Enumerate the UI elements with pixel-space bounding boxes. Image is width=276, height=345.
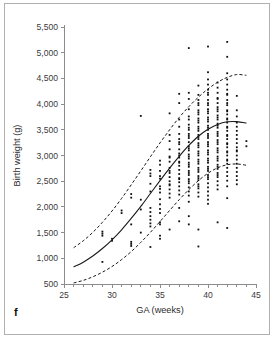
data-point (159, 192, 161, 194)
data-point (178, 133, 180, 135)
data-point (217, 189, 219, 191)
data-point (217, 110, 219, 112)
data-point (178, 173, 180, 175)
data-point (198, 130, 200, 132)
data-point (130, 245, 132, 247)
data-point (178, 190, 180, 192)
data-point (178, 148, 180, 150)
data-point (188, 129, 190, 131)
data-point (236, 183, 238, 185)
data-point (159, 223, 161, 225)
data-point (207, 108, 209, 110)
data-point (226, 79, 228, 81)
data-point (130, 197, 132, 199)
data-point (159, 164, 161, 166)
data-point (207, 203, 209, 205)
data-point (169, 193, 171, 195)
data-point (198, 146, 200, 148)
data-point (198, 85, 200, 87)
data-point (159, 188, 161, 190)
data-point (236, 149, 238, 151)
data-point (150, 215, 152, 217)
y-axis-title: Birth weight (g) (12, 125, 22, 187)
data-point (226, 143, 228, 145)
data-point (188, 180, 190, 182)
data-point (159, 212, 161, 214)
data-point (188, 162, 190, 164)
data-point (198, 153, 200, 155)
data-point (169, 161, 171, 163)
data-point (188, 133, 190, 135)
data-point (217, 127, 219, 129)
data-point (236, 109, 238, 111)
data-point (207, 137, 209, 139)
data-point (207, 162, 209, 164)
data-point (159, 160, 161, 162)
data-point (198, 171, 200, 173)
data-point (198, 94, 200, 96)
data-point (159, 185, 161, 187)
x-tick-label: 25 (59, 290, 69, 300)
data-point (188, 92, 190, 94)
data-point (169, 189, 171, 191)
data-point (188, 47, 190, 49)
data-point (236, 138, 238, 140)
data-point (188, 174, 190, 176)
data-point (188, 147, 190, 149)
data-point (198, 229, 200, 231)
data-point (140, 115, 142, 117)
data-point (207, 158, 209, 160)
panel-label: f (14, 306, 18, 318)
data-point (226, 146, 228, 148)
data-point (150, 246, 152, 248)
data-point (188, 164, 190, 166)
data-point (178, 141, 180, 143)
data-point (169, 170, 171, 172)
data-point (207, 79, 209, 81)
y-tick-label: 4,000 (36, 99, 58, 109)
data-point (226, 197, 228, 199)
data-point (207, 186, 209, 188)
data-point (198, 175, 200, 177)
data-point (246, 145, 248, 147)
data-point (198, 138, 200, 140)
data-point (217, 106, 219, 108)
data-point (198, 126, 200, 128)
data-point (188, 124, 190, 126)
data-point (226, 102, 228, 104)
y-tick-label: 5,500 (36, 22, 58, 32)
data-point (140, 209, 142, 211)
data-point (169, 197, 171, 199)
data-point (188, 108, 190, 110)
data-point (169, 183, 171, 185)
data-point (226, 110, 228, 112)
data-point (178, 165, 180, 167)
data-point (198, 246, 200, 248)
data-point (226, 180, 228, 182)
data-point (198, 196, 200, 198)
data-point (207, 135, 209, 137)
data-point (236, 134, 238, 136)
data-point (217, 221, 219, 223)
data-point (207, 168, 209, 170)
data-point (226, 130, 228, 132)
data-point (207, 154, 209, 156)
data-point (121, 210, 123, 212)
data-point (226, 41, 228, 43)
data-point (198, 109, 200, 111)
data-point (188, 156, 190, 158)
data-point (217, 102, 219, 104)
x-tick-label: 45 (251, 290, 261, 300)
data-point (188, 182, 190, 184)
data-point (226, 155, 228, 157)
data-point (217, 133, 219, 135)
data-point (150, 222, 152, 224)
data-point (169, 180, 171, 182)
data-point (102, 231, 104, 233)
data-point (198, 128, 200, 130)
data-point (178, 143, 180, 145)
data-point (198, 167, 200, 169)
data-point (178, 220, 180, 222)
data-point (236, 95, 238, 97)
data-point (236, 171, 238, 173)
